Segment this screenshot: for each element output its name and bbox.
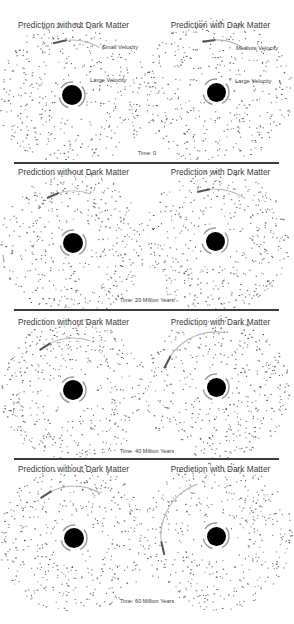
row-time-40-million-years: Prediction without Dark Matter Predictio… bbox=[0, 312, 294, 458]
row-separator bbox=[14, 458, 279, 460]
panel-without-dark-matter: Prediction without Dark Matter bbox=[0, 461, 147, 611]
panel-without-dark-matter: Prediction without Dark Matter bbox=[0, 312, 147, 458]
row-separator bbox=[14, 162, 279, 164]
annotation-medium-velocity: Medium Velocity bbox=[236, 45, 278, 51]
row-time-0: Prediction without Dark Matter Small Vel… bbox=[0, 0, 294, 162]
row-time-60-million-years: Prediction without Dark Matter Predictio… bbox=[0, 461, 294, 624]
panel-without-dark-matter: Prediction without Dark Matter bbox=[0, 165, 147, 310]
row-separator bbox=[14, 309, 279, 311]
panel-without-dark-matter: Prediction without Dark Matter Small Vel… bbox=[0, 0, 147, 160]
central-mass bbox=[62, 85, 82, 105]
central-mass bbox=[63, 380, 83, 400]
panel-with-dark-matter: Prediction with Dark Matter bbox=[147, 165, 294, 310]
time-label: Time: 40 Million Years bbox=[0, 448, 294, 454]
central-mass bbox=[207, 83, 226, 102]
time-label: Time: 20 Million Years bbox=[0, 297, 294, 303]
time-label: Time: 0 bbox=[0, 150, 294, 156]
central-mass bbox=[63, 233, 83, 253]
row-time-20-million-years: Prediction without Dark Matter Predictio… bbox=[0, 165, 294, 310]
annotation-small-velocity: Small Velocity bbox=[102, 44, 138, 50]
central-mass bbox=[64, 528, 84, 548]
central-mass bbox=[207, 378, 226, 397]
panel-with-dark-matter: Prediction with Dark Matter Medium Veloc… bbox=[147, 0, 294, 160]
central-mass bbox=[206, 232, 225, 251]
time-label: Time: 60 Million Years bbox=[0, 598, 294, 604]
annotation-large-velocity: Large Velocity bbox=[90, 77, 126, 83]
panel-with-dark-matter: Prediction with Dark Matter bbox=[147, 312, 294, 458]
panel-with-dark-matter: Prediction with Dark Matter bbox=[147, 461, 294, 611]
annotation-large-velocity: Large Velocity bbox=[235, 78, 271, 84]
central-mass bbox=[207, 527, 226, 546]
particle-field bbox=[147, 0, 294, 160]
